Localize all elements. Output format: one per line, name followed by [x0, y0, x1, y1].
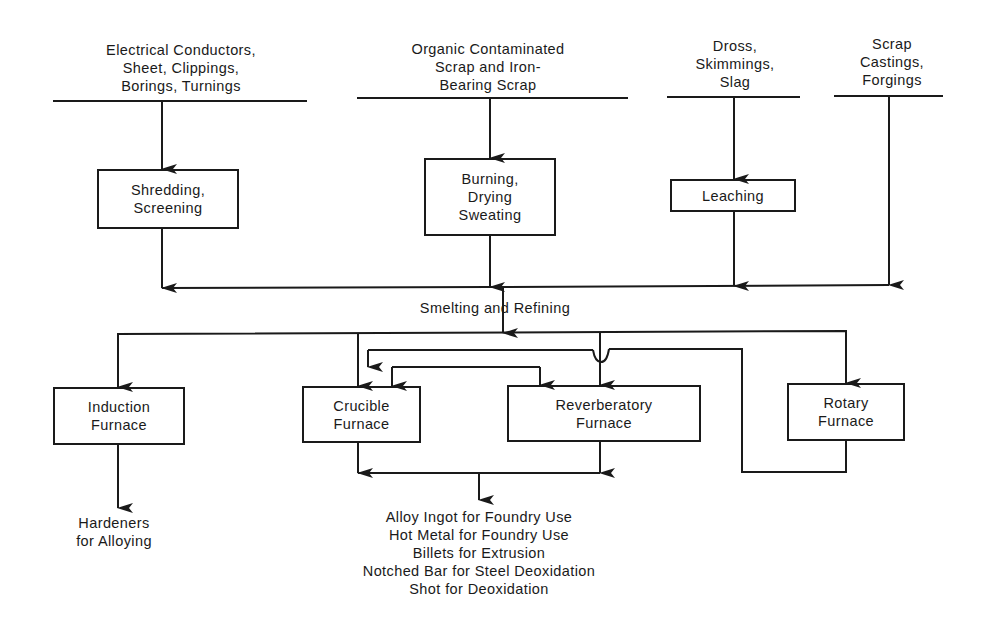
smelting-refining-label: Smelting and Refining — [420, 299, 570, 317]
output-hardeners: Hardeners for Alloying — [76, 514, 152, 550]
input-label-organic: Organic Contaminated Scrap and Iron- Bea… — [411, 40, 564, 94]
induction-furnace-box: Induction Furnace — [53, 387, 185, 445]
leaching-box: Leaching — [670, 179, 796, 212]
flow-diagram: Electrical Conductors, Sheet, Clippings,… — [0, 0, 1001, 621]
input-label-dross: Dross, Skimmings, Slag — [696, 37, 775, 91]
shredding-box: Shredding, Screening — [97, 169, 239, 229]
burning-box: Burning, Drying Sweating — [424, 158, 556, 236]
input-label-electrical: Electrical Conductors, Sheet, Clippings,… — [106, 41, 256, 95]
rotary-furnace-box: Rotary Furnace — [787, 383, 905, 441]
output-main-products: Alloy Ingot for Foundry Use Hot Metal fo… — [363, 508, 595, 598]
input-label-scrap: Scrap Castings, Forgings — [860, 35, 924, 89]
crucible-furnace-box: Crucible Furnace — [302, 386, 421, 443]
reverberatory-furnace-box: Reverberatory Furnace — [507, 385, 701, 442]
